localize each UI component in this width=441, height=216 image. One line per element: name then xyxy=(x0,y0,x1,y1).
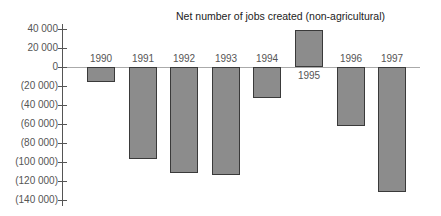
y-tick-mark xyxy=(58,162,67,163)
y-tick-mark xyxy=(58,29,67,30)
y-tick-label: (120 000) xyxy=(0,175,58,187)
y-tick-label: 0 xyxy=(0,61,58,73)
bar-1997 xyxy=(378,67,406,192)
y-tick-label: (100 000) xyxy=(0,156,58,168)
y-tick-mark xyxy=(58,124,67,125)
category-label: 1992 xyxy=(164,53,204,65)
y-tick-mark xyxy=(58,143,67,144)
category-label: 1994 xyxy=(247,53,287,65)
y-tick-mark xyxy=(58,48,67,49)
category-label: 1995 xyxy=(289,70,329,82)
bar-1991 xyxy=(129,67,157,159)
y-tick-label: 40 000 xyxy=(0,23,58,35)
bar-1992 xyxy=(170,67,198,173)
y-tick-mark xyxy=(58,105,67,106)
category-label: 1993 xyxy=(206,53,246,65)
category-label: 1997 xyxy=(372,53,412,65)
bar-1990 xyxy=(87,67,115,82)
y-tick-label: (60 000) xyxy=(0,118,58,130)
y-tick-label: (80 000) xyxy=(0,137,58,149)
category-label: 1990 xyxy=(81,53,121,65)
y-tick-mark xyxy=(58,181,67,182)
y-tick-label: (20 000) xyxy=(0,80,58,92)
y-tick-mark xyxy=(58,200,67,201)
bar-chart: Net number of jobs created (non-agricult… xyxy=(0,0,441,216)
chart-title: Net number of jobs created (non-agricult… xyxy=(0,10,441,22)
bar-1996 xyxy=(337,67,365,126)
bar-1993 xyxy=(212,67,240,175)
bar-1995 xyxy=(295,30,323,67)
y-tick-mark xyxy=(58,67,67,68)
bar-1994 xyxy=(253,67,281,98)
y-tick-label: 20 000 xyxy=(0,42,58,54)
y-tick-mark xyxy=(58,86,67,87)
y-axis-line xyxy=(62,24,63,206)
category-label: 1991 xyxy=(123,53,163,65)
zero-baseline xyxy=(62,67,420,68)
y-tick-label: (140 000) xyxy=(0,194,58,206)
category-label: 1996 xyxy=(331,53,371,65)
y-tick-label: (40 000) xyxy=(0,99,58,111)
